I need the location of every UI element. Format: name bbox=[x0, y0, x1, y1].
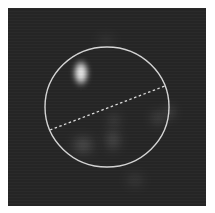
image-frame bbox=[0, 0, 215, 213]
micrograph-overlay bbox=[8, 8, 206, 206]
faint-spot-top bbox=[94, 32, 118, 48]
micrograph-image bbox=[8, 8, 206, 206]
faint-spot-center-upper bbox=[105, 111, 123, 129]
faint-spot-lower-left bbox=[69, 133, 97, 157]
faint-spot-center bbox=[103, 126, 123, 154]
bright-spot bbox=[72, 58, 90, 88]
faint-spot-right-edge bbox=[163, 103, 177, 121]
fluorescent-spots bbox=[69, 32, 177, 190]
faint-spot-bottom bbox=[123, 170, 147, 190]
